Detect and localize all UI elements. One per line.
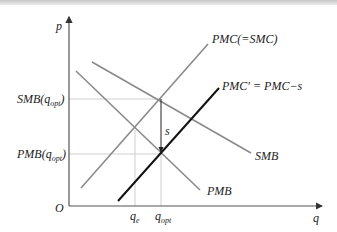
ytick-pmb-qopt: PMB(qopt) xyxy=(16,147,66,163)
pmc-curve xyxy=(81,44,208,188)
pmb-label: PMB xyxy=(206,184,232,198)
origin-label: O xyxy=(55,201,64,215)
y-axis-label: p xyxy=(55,19,62,33)
x-axis-label: q xyxy=(313,211,319,225)
pmc-prime-label: PMC′ = PMC−s xyxy=(221,79,302,93)
pmc-label: PMC(=SMC) xyxy=(211,32,277,46)
subsidy-label: s xyxy=(165,124,170,138)
economics-diagram: p q O SMB(qopt) PMB(qopt) qe qopt PMC(=S… xyxy=(0,0,337,232)
ytick-smb-qopt: SMB(qopt) xyxy=(17,92,65,108)
xtick-qe: qe xyxy=(130,209,140,225)
xtick-qopt: qopt xyxy=(155,209,172,225)
smb-label: SMB xyxy=(255,149,279,163)
smb-curve xyxy=(92,62,251,153)
